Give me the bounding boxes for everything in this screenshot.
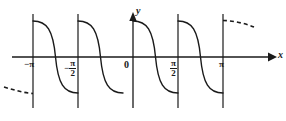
graph-figure: y x 0 −π − π 2 π 2 π (0, 0, 286, 121)
fraction-denominator: 2 (170, 69, 177, 78)
dashed-tail-bottom-left (4, 87, 33, 94)
tick-text-minus-pi: −π (24, 59, 34, 69)
dashed-tail-top-right (223, 21, 254, 28)
fraction-numerator: π (69, 59, 76, 68)
origin-label: 0 (124, 60, 129, 70)
x-tick-label-pi: π (219, 60, 224, 69)
tick-text-pi: π (219, 59, 224, 69)
fraction-minus-pi-over-2: π 2 (69, 59, 76, 79)
x-tick-label-minus-pi-over-2: − π 2 (64, 59, 76, 79)
fraction-denominator: 2 (69, 69, 76, 78)
x-axis-group (12, 53, 277, 62)
x-tick-label-minus-pi: −π (24, 60, 34, 69)
x-axis-label: x (278, 50, 283, 60)
fraction-numerator: π (170, 59, 177, 68)
x-tick-label-pi-over-2: π 2 (170, 59, 177, 79)
plot-canvas (0, 0, 286, 121)
fraction-pi-over-2: π 2 (170, 59, 177, 79)
y-axis-group (129, 12, 136, 108)
y-axis-label: y (136, 6, 140, 16)
x-axis-arrowhead (268, 53, 277, 62)
